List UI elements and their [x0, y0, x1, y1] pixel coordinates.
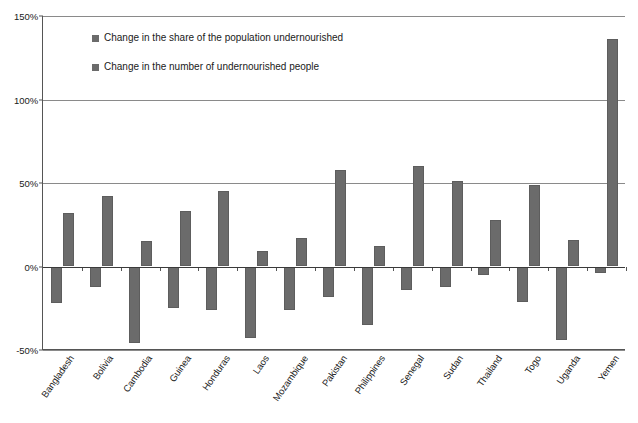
bar — [284, 267, 295, 310]
bar — [595, 267, 606, 274]
bar — [51, 267, 62, 304]
legend-entry: Change in the number of undernourished p… — [92, 61, 343, 74]
bar — [180, 211, 191, 266]
gridline — [43, 16, 625, 17]
x-axis-category-label: Pakistan — [319, 353, 348, 389]
bar — [374, 246, 385, 266]
x-axis-category-label: Uganda — [554, 353, 582, 386]
bar — [129, 267, 140, 344]
bar — [452, 181, 463, 266]
legend-label: Change in the share of the population un… — [104, 32, 343, 45]
bar — [218, 191, 229, 266]
bar-chart: -50%0%50%100%150% BangladeshBoliviaCambo… — [0, 0, 638, 423]
bar — [556, 267, 567, 340]
bar — [517, 267, 528, 302]
bar — [335, 170, 346, 267]
x-axis-category-label: Honduras — [200, 353, 232, 392]
bar — [102, 196, 113, 266]
bar — [413, 166, 424, 266]
x-axis-category-label: Sudan — [441, 353, 465, 381]
bar — [529, 185, 540, 267]
bar — [490, 220, 501, 267]
bar — [440, 267, 451, 287]
x-axis-tick-mark — [626, 267, 627, 271]
x-axis-category-label: Yemen — [595, 353, 620, 383]
legend-swatch-share-icon — [92, 35, 99, 42]
bar — [362, 267, 373, 325]
bar — [401, 267, 412, 290]
legend-label: Change in the number of undernourished p… — [104, 61, 319, 74]
y-axis-tick-mark — [39, 183, 43, 184]
bar — [478, 267, 489, 275]
x-axis-category-label: Bangladesh — [39, 353, 76, 400]
x-axis-category-label: Cambodia — [121, 353, 154, 394]
gridline — [43, 100, 625, 101]
bar — [607, 39, 618, 266]
bar — [90, 267, 101, 287]
x-axis-labels: BangladeshBoliviaCambodiaGuineaHondurasL… — [42, 350, 625, 410]
bar — [245, 267, 256, 339]
legend-entry: Change in the share of the population un… — [92, 32, 343, 45]
bar — [323, 267, 334, 297]
x-axis-category-label: Thailand — [475, 353, 504, 389]
legend-swatch-number-icon — [92, 64, 99, 71]
bar — [296, 238, 307, 266]
zero-baseline — [43, 267, 625, 268]
bar — [141, 241, 152, 266]
bar — [168, 267, 179, 309]
bar — [206, 267, 217, 310]
bar — [63, 213, 74, 266]
x-axis-category-label: Guinea — [167, 353, 193, 384]
x-axis-category-label: Senegal — [398, 353, 427, 387]
y-axis-tick-mark — [39, 16, 43, 17]
x-axis-category-label: Laos — [250, 353, 271, 376]
x-axis-category-label: Philippines — [353, 353, 388, 396]
x-axis-category-label: Togo — [522, 353, 543, 376]
bar — [568, 240, 579, 267]
x-axis-category-label: Mozambique — [270, 353, 310, 403]
x-axis-category-label: Bolivia — [91, 353, 116, 382]
chart-legend: Change in the share of the population un… — [92, 32, 343, 89]
bar — [257, 251, 268, 266]
y-axis-tick-mark — [39, 99, 43, 100]
